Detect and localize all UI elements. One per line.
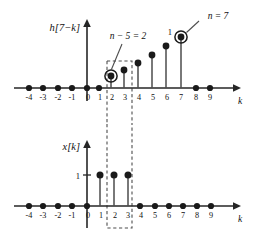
sample-dot-km2: [55, 85, 61, 91]
sample-dot-k3: [121, 67, 128, 74]
sample-dot-km3: [40, 85, 46, 91]
bottom-tick-label: 7: [181, 211, 185, 220]
sample-dot-k8: [193, 85, 199, 91]
top-tick-label: -2: [55, 93, 62, 102]
figure-canvas: 1 n − 5 = 2 n = 7 h[7−k] k -4 -3 -2 -1 0…: [0, 0, 253, 247]
top-amplitude-label: 1: [168, 27, 172, 37]
bottom-tick-label: 4: [139, 211, 143, 220]
bottom-y-axis-arrow: [83, 140, 91, 148]
top-tick-label: 8: [194, 93, 198, 102]
signal-convolution-figure: 1 n − 5 = 2 n = 7 h[7−k] k -4 -3 -2 -1 0…: [0, 0, 253, 247]
sample-dot-x-k6: [166, 203, 172, 209]
top-tick-label: 6: [165, 93, 169, 102]
top-tick-label: 5: [151, 93, 155, 102]
leader-line-left: [111, 44, 122, 71]
sample-dot-km1: [69, 85, 75, 91]
top-tick-label: 1: [98, 93, 102, 102]
top-plot-ylabel: h[7−k]: [50, 22, 80, 33]
sample-dot-k5: [149, 52, 156, 59]
annotation-n-equals-7: n = 7: [208, 11, 230, 21]
sample-dot-x-k9: [208, 203, 214, 209]
bottom-x-axis-arrow: [233, 202, 241, 210]
bottom-tick-label: 3: [126, 211, 130, 220]
top-tick-label: -1: [69, 93, 76, 102]
bottom-tick-label: 0: [86, 211, 90, 220]
top-x-axis-arrow: [233, 84, 241, 92]
bottom-plot: 1 x[k] k -4: [14, 124, 243, 228]
bottom-plot-ylabel: x[k]: [62, 141, 81, 152]
bottom-tick-label: -4: [26, 211, 33, 220]
sample-dot-x-k2: [111, 172, 118, 179]
bottom-tick-label: 5: [153, 211, 157, 220]
sample-dot-k1: [96, 85, 102, 91]
bottom-tick-label: 9: [209, 211, 213, 220]
bottom-tick-label: -2: [55, 211, 62, 220]
sample-dot-x-k5: [152, 203, 158, 209]
top-tick-label: 9: [208, 93, 212, 102]
sample-dot-x-k3: [125, 172, 132, 179]
sample-dot-x-km2: [55, 203, 61, 209]
leader-line-right: [187, 21, 200, 33]
top-plot: 1 n − 5 = 2 n = 7 h[7−k] k -4 -3 -2 -1 0…: [14, 11, 243, 124]
sample-dot-x-k4: [137, 203, 143, 209]
bottom-tick-label: 8: [195, 211, 199, 220]
sample-dot-x-k1: [97, 172, 104, 179]
sample-dot-k4: [135, 60, 142, 67]
top-plot-xlabel: k: [238, 96, 243, 106]
sample-dot-x-km1: [69, 203, 75, 209]
sample-dot-k9: [207, 85, 213, 91]
bottom-tick-label: -3: [40, 211, 47, 220]
bottom-amplitude-label: 1: [76, 171, 80, 181]
sample-dot-km4: [26, 85, 32, 91]
sample-dot-k7: [178, 34, 185, 41]
bottom-plot-xlabel: k: [238, 214, 243, 224]
bottom-tick-label: 6: [167, 211, 171, 220]
annotation-n-minus-5: n − 5 = 2: [110, 31, 147, 41]
sample-dot-k0: [84, 85, 90, 91]
top-tick-label: 3: [123, 93, 127, 102]
sample-dot-k6: [163, 43, 170, 50]
sample-dot-x-k7: [180, 203, 186, 209]
bottom-tick-label: 1: [99, 211, 103, 220]
bottom-tick-label: -1: [69, 211, 76, 220]
top-tick-label: 2: [110, 93, 114, 102]
sample-dot-x-km4: [26, 203, 32, 209]
top-tick-label: 7: [179, 93, 183, 102]
sample-dot-x-km3: [40, 203, 46, 209]
top-tick-label: 4: [137, 93, 141, 102]
sample-dot-x-k8: [194, 203, 200, 209]
top-tick-label: 0: [86, 93, 90, 102]
sample-dot-x-k0: [84, 203, 90, 209]
top-y-axis-arrow: [83, 19, 91, 27]
top-tick-label: -3: [40, 93, 47, 102]
top-tick-label: -4: [26, 93, 33, 102]
bottom-tick-label: 2: [113, 211, 117, 220]
sample-dot-k2: [108, 73, 115, 80]
